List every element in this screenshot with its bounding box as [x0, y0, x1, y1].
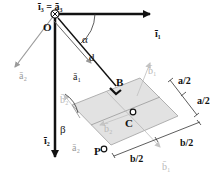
rod-OB [58, 18, 116, 86]
label-P: P [94, 145, 101, 157]
label-d: d [89, 51, 95, 63]
label-i2: ī₂ [43, 135, 50, 146]
center-C-point [130, 109, 136, 115]
label-i1: ī₁ [154, 28, 161, 39]
label-C: C [125, 117, 133, 129]
label-a-half-2: a/2 [197, 95, 210, 106]
label-a2-bottom: ā₂ [72, 142, 80, 153]
label-b2-center: b̄₂ [104, 123, 113, 134]
label-a2-left: ā₂ [19, 70, 27, 81]
mechanics-diagram: ī₃ = ā₃ ī₁ ī₂ O α d ā₁ ā₂ B C P b̄₁ b̄₁ … [0, 0, 221, 172]
label-b2-left: b̄₂ [60, 94, 69, 105]
label-a-half-1: a/2 [178, 75, 191, 86]
point-P [101, 146, 107, 152]
label-beta: β [60, 123, 66, 135]
label-b1-bottom: b̄₁ [162, 161, 171, 172]
label-O: O [43, 21, 52, 33]
label-B: B [116, 76, 124, 88]
label-b1-top: b̄₁ [148, 65, 157, 76]
label-b-half-1: b/2 [180, 137, 193, 148]
label-i3-eq-a3: ī₃ = ā₃ [37, 1, 62, 12]
label-a1: ā₁ [73, 71, 81, 82]
label-b-half-2: b/2 [130, 153, 143, 164]
label-alpha: α [82, 33, 88, 45]
